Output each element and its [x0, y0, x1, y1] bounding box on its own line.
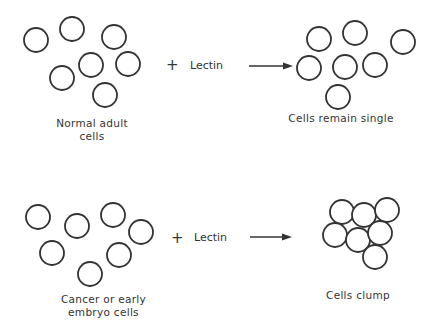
cell-circle [107, 243, 131, 267]
label-line-1: Cancer or early [46, 293, 161, 306]
cell-circle [307, 27, 331, 51]
cells-remain-single-label: Cells remain single [276, 112, 406, 125]
cells-clump-group [323, 198, 399, 269]
cell-circle [79, 53, 103, 77]
cell-circle [26, 205, 50, 229]
plus-sign-bottom: + [171, 229, 184, 247]
cells-drawing [0, 0, 438, 334]
cell-circle [24, 28, 48, 52]
cell-circle [60, 17, 84, 41]
cell-circle [297, 56, 321, 80]
cell-circle [363, 53, 387, 77]
cell-circle [368, 221, 392, 245]
lectin-label-top: Lectin [190, 59, 223, 72]
cell-circle [129, 220, 153, 244]
label-line-2: cells [42, 130, 142, 143]
normal-adult-cells-group [24, 17, 140, 107]
normal-adult-label: Normal adult cells [42, 117, 142, 143]
cell-circle [101, 203, 125, 227]
label-line-1: Normal adult [42, 117, 142, 130]
cell-circle [65, 214, 89, 238]
lectin-label-bottom: Lectin [194, 231, 227, 244]
cells-clump-label: Cells clump [318, 289, 398, 302]
cell-circle [330, 200, 354, 224]
cells-remain-single-group [297, 21, 415, 109]
cell-circle [78, 262, 102, 286]
cell-circle [40, 241, 64, 265]
cell-circle [333, 55, 357, 79]
cell-circle [323, 223, 347, 247]
plus-sign-top: + [166, 56, 179, 74]
lectin-cell-diagram: + Lectin Normal adult cells Cells remain… [0, 0, 438, 334]
cell-circle [375, 198, 399, 222]
arrow-bottom [250, 234, 292, 241]
cell-circle [50, 66, 74, 90]
cell-circle [116, 52, 140, 76]
cancer-embryo-cells-group [26, 203, 153, 286]
cancer-embryo-label: Cancer or early embryo cells [46, 293, 161, 319]
cell-circle [363, 245, 387, 269]
label-line-2: embryo cells [46, 306, 161, 319]
arrow-top [249, 63, 293, 70]
cell-circle [391, 30, 415, 54]
cell-circle [343, 21, 367, 45]
cell-circle [102, 25, 126, 49]
cell-circle [326, 85, 350, 109]
cell-circle [93, 83, 117, 107]
